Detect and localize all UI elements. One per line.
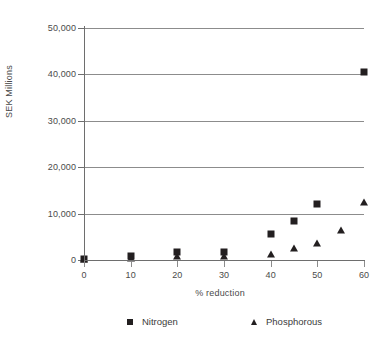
legend-item-phosphorous: Phosphorous: [251, 316, 322, 327]
data-point-phosphorous: [337, 226, 345, 233]
data-point-nitrogen: [291, 218, 298, 225]
data-point-phosphorous: [220, 253, 228, 260]
x-tick-mark: [224, 261, 225, 267]
x-tick-mark: [177, 261, 178, 267]
data-point-phosphorous: [173, 252, 181, 259]
gridline: [84, 74, 364, 75]
y-axis-title: SEK Millions: [4, 65, 14, 118]
triangle-marker-icon: [251, 319, 257, 325]
y-tick-label: 0: [4, 255, 76, 265]
gridline: [84, 121, 364, 122]
x-tick-mark: [364, 261, 365, 267]
y-tick-label: 40,000: [4, 69, 76, 79]
legend-label-nitrogen: Nitrogen: [142, 316, 178, 327]
x-tick-label: 30: [219, 270, 229, 280]
x-axis-title: % reduction: [0, 288, 390, 298]
plot-area: [84, 28, 364, 260]
data-point-nitrogen: [361, 69, 368, 76]
legend-item-nitrogen: Nitrogen: [127, 316, 178, 327]
y-tick-label: 20,000: [4, 162, 76, 172]
x-tick-label: 60: [359, 270, 369, 280]
chart-legend: Nitrogen Phosphorous: [0, 314, 390, 334]
y-tick-label: 50,000: [4, 23, 76, 33]
x-tick-label: 40: [266, 270, 276, 280]
x-tick-mark: [271, 261, 272, 267]
x-tick-label: 20: [172, 270, 182, 280]
data-point-phosphorous: [290, 244, 298, 251]
data-point-phosphorous: [313, 240, 321, 247]
x-tick-mark: [131, 261, 132, 267]
legend-label-phosphorous: Phosphorous: [266, 316, 322, 327]
x-tick-label: 0: [81, 270, 86, 280]
gridline: [84, 214, 364, 215]
data-point-phosphorous: [267, 250, 275, 257]
y-axis-line: [84, 26, 85, 262]
data-point-nitrogen: [267, 230, 274, 237]
data-point-phosphorous: [360, 198, 368, 205]
y-tick-label: 10,000: [4, 209, 76, 219]
x-tick-label: 10: [126, 270, 136, 280]
x-tick-mark: [317, 261, 318, 267]
scatter-chart: 010,00020,00030,00040,00050,000 SEK Mill…: [0, 0, 390, 348]
gridline: [84, 28, 364, 29]
gridline: [84, 167, 364, 168]
x-tick-label: 50: [312, 270, 322, 280]
x-tick-mark: [84, 261, 85, 267]
y-tick-label: 30,000: [4, 116, 76, 126]
square-marker-icon: [127, 319, 133, 325]
data-point-nitrogen: [314, 200, 321, 207]
